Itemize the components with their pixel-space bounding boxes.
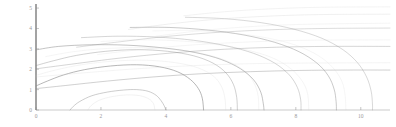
x-tick-label: 2	[100, 113, 103, 119]
contour-line	[46, 48, 259, 110]
y-tick-label: 0	[22, 107, 32, 113]
contour-line	[88, 95, 155, 110]
x-tick-label: 0	[35, 113, 38, 119]
x-tick-label: 8	[294, 113, 297, 119]
contour-line	[36, 65, 204, 110]
contour-line	[77, 28, 390, 47]
y-tick-label: 4	[22, 25, 32, 31]
contour-line	[70, 90, 166, 110]
contour-line	[130, 27, 336, 110]
contour-plot-canvas	[0, 0, 396, 127]
y-tick-label: 5	[22, 5, 32, 11]
contour-plot-figure: 0246810 012345	[0, 0, 396, 127]
y-tick-label: 2	[22, 66, 32, 72]
contour-lines-group	[36, 7, 390, 110]
x-tick-label: 4	[165, 113, 168, 119]
y-tick-label: 3	[22, 46, 32, 52]
x-tick-label: 10	[358, 113, 364, 119]
contour-line	[36, 60, 226, 110]
y-tick-label: 1	[22, 87, 32, 93]
contour-line	[36, 50, 237, 110]
x-tick-label: 6	[229, 113, 232, 119]
